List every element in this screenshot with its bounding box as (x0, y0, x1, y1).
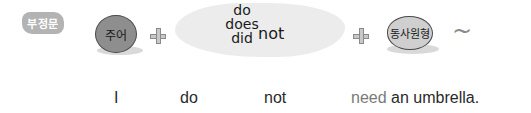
plus-icon (150, 28, 166, 44)
example-predicate: need an umbrella. (351, 89, 479, 107)
negation-word: not (258, 24, 284, 43)
example-subject: I (114, 89, 118, 107)
verb-base-ball: 동사원형 (387, 16, 433, 50)
example-negation: not (264, 89, 286, 107)
negative-sentence-label: 부정문 (22, 12, 64, 34)
aux-do: do (212, 3, 272, 17)
example-verb: need (351, 89, 387, 106)
tilde-icon: ~ (452, 19, 472, 43)
plus-icon (353, 28, 369, 44)
example-rest: an umbrella. (387, 89, 480, 106)
subject-ball: 주어 (95, 15, 137, 53)
example-auxiliary: do (180, 89, 198, 107)
